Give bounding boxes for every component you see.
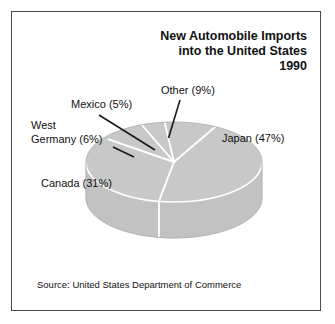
- pie-chart: New Automobile Imports into the United S…: [0, 0, 335, 324]
- slice-label-mexico: Mexico (5%): [71, 98, 132, 110]
- title-line-3: 1990: [279, 59, 307, 73]
- title-line-2: into the United States: [179, 44, 308, 58]
- slice-label-japan: Japan (47%): [222, 132, 284, 144]
- slice-label-canada: Canada (31%): [41, 177, 112, 189]
- slice-label-other: Other (9%): [161, 84, 215, 96]
- slice-label-west-germany-line2: Germany (6%): [31, 133, 103, 145]
- chart-page: New Automobile Imports into the United S…: [0, 0, 335, 324]
- title-line-1: New Automobile Imports: [160, 29, 307, 43]
- slice-label-west-germany-line1: West: [31, 119, 56, 131]
- chart-title: New Automobile Imports into the United S…: [160, 29, 307, 73]
- source-note: Source: United States Department of Comm…: [37, 279, 241, 290]
